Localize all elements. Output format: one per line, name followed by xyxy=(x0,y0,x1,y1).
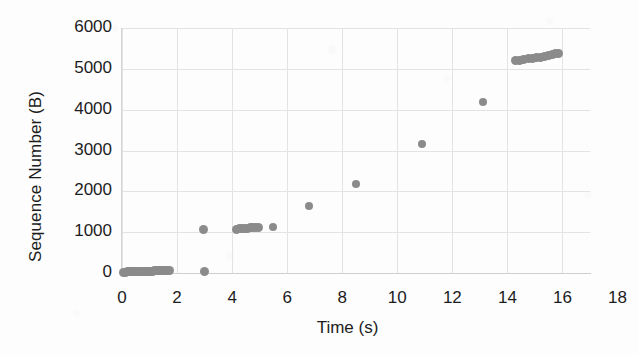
data-point xyxy=(418,140,426,148)
x-axis-title: Time (s) xyxy=(0,318,639,338)
gridline-horizontal xyxy=(122,232,590,233)
gridline-vertical xyxy=(122,28,123,273)
y-axis-tick-labels: 0100020003000400050006000 xyxy=(46,0,112,355)
x-axis-tick-label: 12 xyxy=(443,288,462,308)
scatter-chart-figure: Sequence Number (B) 01000200030004000500… xyxy=(0,0,639,355)
data-point xyxy=(554,49,563,58)
y-axis-tick-label: 4000 xyxy=(46,99,112,119)
x-axis-tick-label: 16 xyxy=(553,288,572,308)
data-point xyxy=(305,202,313,210)
data-point xyxy=(254,223,263,232)
gridline-vertical xyxy=(287,28,288,273)
x-axis-tick-label: 8 xyxy=(338,288,347,308)
y-axis-tick-label: 3000 xyxy=(46,140,112,160)
x-axis-tick-label: 18 xyxy=(608,288,627,308)
data-point xyxy=(200,267,209,276)
gridline-horizontal xyxy=(122,273,590,274)
data-point xyxy=(479,98,487,106)
plot-area xyxy=(122,28,590,273)
x-axis-tick-label: 10 xyxy=(388,288,407,308)
gridline-vertical xyxy=(507,28,508,273)
y-axis-tick-label: 0 xyxy=(46,262,112,282)
y-axis-tick-label: 2000 xyxy=(46,180,112,200)
y-axis-tick-label: 5000 xyxy=(46,58,112,78)
data-point xyxy=(165,266,174,275)
gridline-vertical xyxy=(177,28,178,273)
gridline-vertical xyxy=(562,28,563,273)
gridline-vertical xyxy=(232,28,233,273)
gridline-vertical xyxy=(342,28,343,273)
x-axis-tick-label: 6 xyxy=(282,288,291,308)
gridline-vertical xyxy=(397,28,398,273)
y-axis-tick-label: 6000 xyxy=(46,17,112,37)
gridline-horizontal xyxy=(122,28,590,29)
gridline-horizontal xyxy=(122,69,590,70)
x-axis-tick-label: 14 xyxy=(498,288,517,308)
gridline-horizontal xyxy=(122,151,590,152)
data-point xyxy=(352,180,360,188)
gridline-horizontal xyxy=(122,191,590,192)
x-axis-tick-label: 2 xyxy=(172,288,181,308)
data-point xyxy=(269,223,277,231)
x-axis-tick-label: 4 xyxy=(227,288,236,308)
gridline-vertical xyxy=(452,28,453,273)
y-axis-title: Sequence Number (B) xyxy=(26,91,46,262)
x-axis-tick-label: 0 xyxy=(117,288,126,308)
gridline-horizontal xyxy=(122,110,590,111)
y-axis-tick-label: 1000 xyxy=(46,221,112,241)
